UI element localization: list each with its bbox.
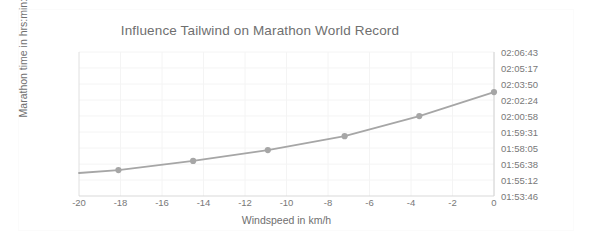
y-tick-label: 01:59:31 — [501, 127, 538, 138]
x-tick-label: -14 — [197, 197, 211, 208]
vertical-grid-lines — [121, 52, 495, 196]
chart-figure: Influence Tailwind on Marathon World Rec… — [0, 0, 594, 243]
x-tick-label: -16 — [155, 197, 169, 208]
y-axis-tick-labels: 02:06:4302:05:1702:03:5002:02:2402:00:58… — [501, 52, 571, 196]
data-point-marker — [190, 158, 196, 164]
line-chart-svg — [79, 52, 494, 196]
y-tick-label: 02:03:50 — [501, 79, 538, 90]
x-tick-label: -10 — [280, 197, 294, 208]
data-markers — [115, 89, 497, 173]
x-tick-label: 0 — [491, 197, 496, 208]
y-axis-title: Marathon time in hrs:min:sec — [17, 0, 29, 140]
data-point-marker — [115, 167, 121, 173]
y-tick-label: 02:02:24 — [501, 95, 538, 106]
x-axis-title: Windspeed in km/h — [79, 214, 494, 226]
x-axis-tick-labels: -20-18-16-14-12-10-8-6-4-20 — [79, 197, 494, 213]
x-tick-label: -6 — [365, 197, 373, 208]
x-tick-label: -4 — [407, 197, 415, 208]
x-tick-label: -8 — [324, 197, 332, 208]
data-point-marker — [265, 147, 271, 153]
x-tick-label: -2 — [448, 197, 456, 208]
y-tick-label: 01:55:12 — [501, 175, 538, 186]
x-tick-label: -18 — [114, 197, 128, 208]
y-tick-label: 02:06:43 — [501, 47, 538, 58]
y-tick-label: 01:53:46 — [501, 191, 538, 202]
y-tick-label: 01:56:38 — [501, 159, 538, 170]
plot-area — [79, 52, 494, 196]
y-tick-label: 02:00:58 — [501, 110, 538, 121]
y-tick-label: 01:58:05 — [501, 143, 538, 154]
data-point-marker — [416, 113, 422, 119]
data-point-marker — [491, 89, 497, 95]
data-point-marker — [342, 133, 348, 139]
chart-title: Influence Tailwind on Marathon World Rec… — [0, 23, 520, 38]
y-tick-label: 02:05:17 — [501, 62, 538, 73]
x-tick-label: -20 — [72, 197, 86, 208]
x-tick-label: -12 — [238, 197, 252, 208]
